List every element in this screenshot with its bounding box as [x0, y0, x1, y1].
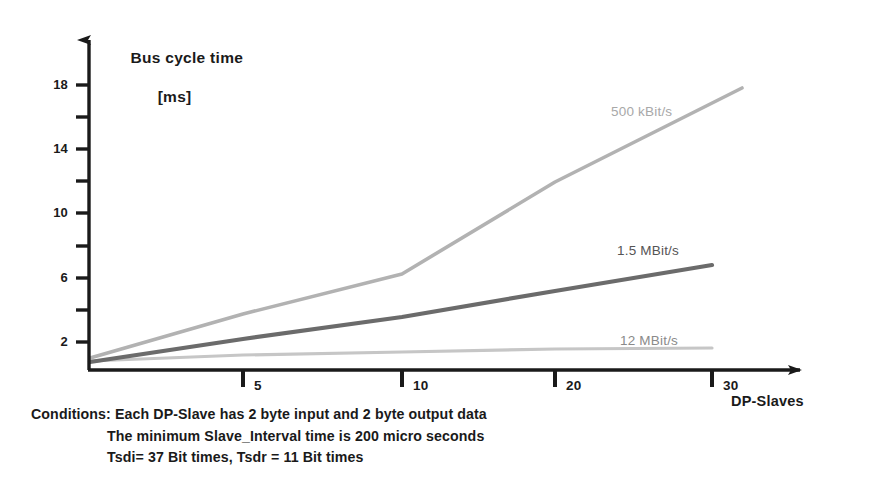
y-axis-title-main: Bus cycle time — [130, 49, 243, 66]
y-tick-label-2: 2 — [42, 334, 68, 349]
bus-cycle-time-chart: Bus cycle time [ms] DP-Slaves 18 14 10 6… — [0, 0, 871, 502]
conditions-line-1: Conditions: Each DP-Slave has 2 byte inp… — [31, 404, 487, 426]
y-axis-title: Bus cycle time [ms] — [112, 30, 243, 144]
y-axis-title-unit: [ms] — [106, 88, 243, 107]
x-tick-label-30: 30 — [723, 378, 738, 393]
y-tick-label-18: 18 — [42, 77, 68, 92]
x-tick-label-10: 10 — [413, 378, 428, 393]
x-tick-label-5: 5 — [254, 378, 262, 393]
x-axis-ticks — [243, 370, 712, 387]
series-label-15mbit: 1.5 MBit/s — [617, 243, 679, 258]
x-tick-label-20: 20 — [566, 378, 581, 393]
series-label-12mbit: 12 MBit/s — [620, 333, 678, 348]
x-axis-title: DP-Slaves — [731, 393, 804, 411]
y-tick-label-6: 6 — [42, 270, 68, 285]
y-tick-label-10: 10 — [42, 205, 68, 220]
y-tick-label-14: 14 — [42, 141, 68, 156]
y-axis-ticks — [76, 85, 89, 342]
conditions-line-2: The minimum Slave_Interval time is 200 m… — [31, 426, 487, 448]
conditions-line-3: Tsdi= 37 Bit times, Tsdr = 11 Bit times — [31, 447, 487, 469]
conditions-note: Conditions: Each DP-Slave has 2 byte inp… — [31, 404, 487, 469]
series-label-500kbit: 500 kBit/s — [611, 104, 672, 119]
